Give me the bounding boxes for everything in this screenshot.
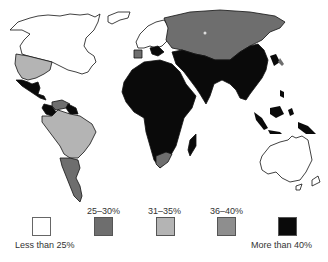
- legend-swatch-36-40: [217, 217, 236, 236]
- region-brazil: [42, 110, 96, 158]
- legend-label-36-40: 36–40%: [210, 206, 243, 216]
- world-map: [0, 0, 328, 215]
- legend-swatch-25-30: [94, 217, 113, 236]
- legend-label-more-than-40: More than 40%: [251, 240, 312, 250]
- legend-label-25-30: 25–30%: [87, 206, 120, 216]
- region-southern-south-america: [60, 158, 82, 202]
- legend-swatch-31-35: [156, 217, 175, 236]
- region-mexico: [16, 80, 46, 100]
- legend-label-less-than-25: Less than 25%: [15, 240, 75, 250]
- region-europe: [136, 20, 170, 48]
- legend-swatch-less-than-25: [32, 217, 51, 236]
- region-africa: [122, 60, 196, 168]
- legend-label-31-35: 31–35%: [148, 206, 181, 216]
- region-australia: [260, 136, 312, 182]
- legend-swatch-more-than-40: [278, 217, 297, 236]
